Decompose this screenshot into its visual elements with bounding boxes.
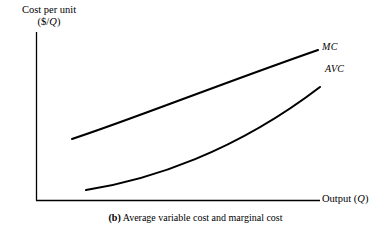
x-axis-label-suffix: ) xyxy=(365,193,369,204)
y-axis-label-variable: Q xyxy=(49,16,57,27)
avc-curve-label: AVC xyxy=(325,63,344,74)
mc-curve-label: MC xyxy=(322,41,338,52)
y-axis-label-suffix: ) xyxy=(57,16,61,27)
x-axis-label: Output (Q) xyxy=(322,193,368,205)
y-axis-label: Cost per unit ($/Q) xyxy=(0,4,98,28)
economics-figure: Cost per unit ($/Q) Output (Q) MC AVC (b… xyxy=(0,0,391,234)
figure-caption-text: Average variable cost and marginal cost xyxy=(123,212,283,223)
y-axis-label-prefix: ($/ xyxy=(38,16,50,27)
x-axis-label-prefix: Output ( xyxy=(322,193,357,204)
y-axis-label-line1: Cost per unit xyxy=(22,4,76,15)
y-axis-label-line2: ($/Q) xyxy=(0,16,98,28)
figure-caption: (b) Average variable cost and marginal c… xyxy=(0,212,391,223)
x-axis-label-variable: Q xyxy=(357,193,365,204)
figure-caption-tag: (b) xyxy=(108,212,120,223)
